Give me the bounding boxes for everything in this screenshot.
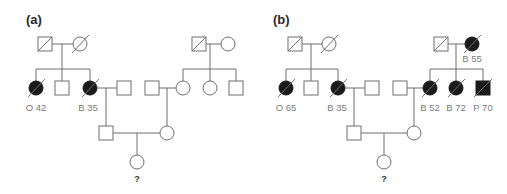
diagnosis-label: O 42 [26, 102, 47, 113]
male-symbol [365, 81, 379, 95]
pedigree-figure: (a) O 42 B 35 [0, 0, 507, 194]
diagnosis-label: O 65 [276, 102, 297, 113]
diagnosis-label: B 35 [327, 102, 347, 113]
query-label: ? [134, 174, 140, 184]
male-symbol [145, 81, 159, 95]
female-symbol [176, 81, 190, 95]
panel-a: (a) O 42 B 35 [26, 12, 243, 184]
a-gen1-left-couple [38, 35, 89, 69]
female-symbol [203, 81, 217, 95]
diagnosis-label: P 70 [473, 102, 492, 113]
diagnosis-label: B 52 [420, 102, 440, 113]
male-symbol [304, 81, 318, 95]
panel-b: (b) O 65 B 35 B 55 [273, 12, 493, 184]
proband-female-symbol [130, 155, 144, 169]
panel-b-label: (b) [273, 12, 290, 27]
diagnosis-label: B 72 [446, 102, 466, 113]
female-symbol [160, 126, 174, 140]
query-label: ? [381, 174, 387, 184]
male-symbol [117, 81, 131, 95]
diagnosis-label: B 55 [462, 53, 482, 64]
male-symbol [347, 126, 361, 140]
female-symbol [221, 37, 235, 51]
male-symbol [55, 81, 69, 95]
diagnosis-label: B 35 [78, 102, 98, 113]
male-symbol [229, 81, 243, 95]
male-symbol [99, 126, 113, 140]
female-symbol [407, 126, 421, 140]
male-symbol [393, 81, 407, 95]
proband-female-symbol [377, 155, 391, 169]
panel-a-label: (a) [26, 12, 42, 27]
